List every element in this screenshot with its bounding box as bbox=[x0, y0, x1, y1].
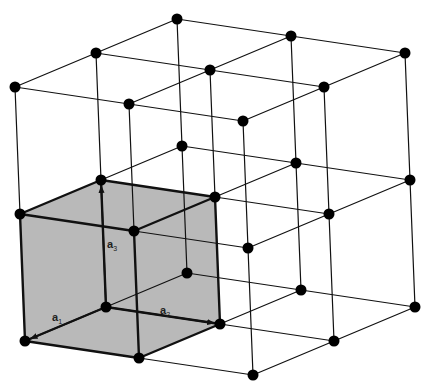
lattice-node bbox=[15, 209, 26, 220]
lattice-edge bbox=[96, 53, 101, 180]
lattice-node bbox=[20, 336, 31, 347]
vector-label-a1: a1 bbox=[52, 311, 62, 325]
lattice-edge bbox=[329, 214, 334, 341]
lattice-svg bbox=[0, 0, 428, 387]
lattice-edge bbox=[296, 163, 410, 180]
lattice-edge bbox=[243, 87, 324, 121]
lattice-edge bbox=[177, 19, 291, 36]
lattice-edge bbox=[210, 70, 215, 197]
lattice-edge bbox=[96, 53, 210, 70]
lattice-edge bbox=[210, 70, 324, 87]
lattice-node bbox=[129, 226, 140, 237]
lattice-diagram: a1 a2 a3 bbox=[0, 0, 428, 387]
vector-label-a1-sub: 1 bbox=[58, 318, 62, 325]
lattice-node bbox=[91, 48, 102, 59]
lattice-node bbox=[405, 175, 416, 186]
lattice-node bbox=[319, 82, 330, 93]
lattice-edge bbox=[301, 290, 415, 307]
lattice-node bbox=[205, 65, 216, 76]
lattice-edge bbox=[324, 87, 329, 214]
lattice-edge bbox=[129, 70, 210, 104]
lattice-node bbox=[101, 302, 112, 313]
lattice-node bbox=[291, 158, 302, 169]
lattice-edge bbox=[182, 146, 296, 163]
lattice-edge bbox=[220, 290, 301, 324]
lattice-node bbox=[177, 141, 188, 152]
lattice-edge bbox=[15, 87, 20, 214]
lattice-edge bbox=[405, 53, 410, 180]
vector-label-a3: a3 bbox=[107, 238, 117, 252]
lattice-node bbox=[400, 48, 411, 59]
lattice-edge bbox=[334, 307, 415, 341]
lattice-edge bbox=[210, 36, 291, 70]
vector-label-a2: a2 bbox=[160, 304, 170, 318]
lattice-node bbox=[182, 268, 193, 279]
lattice-node bbox=[248, 370, 259, 381]
lattice-edge bbox=[329, 180, 410, 214]
lattice-node bbox=[410, 302, 421, 313]
lattice-edge bbox=[96, 19, 177, 53]
lattice-edge bbox=[15, 87, 129, 104]
lattice-edge bbox=[248, 214, 329, 248]
lattice-node bbox=[296, 285, 307, 296]
lattice-node bbox=[210, 192, 221, 203]
lattice-edge bbox=[15, 53, 96, 87]
lattice-node bbox=[286, 31, 297, 42]
vector-label-a2-sub: 2 bbox=[166, 311, 170, 318]
lattice-node bbox=[238, 116, 249, 127]
lattice-node bbox=[329, 336, 340, 347]
lattice-edge bbox=[253, 341, 334, 375]
lattice-node bbox=[10, 82, 21, 93]
vector-label-a3-sub: 3 bbox=[113, 245, 117, 252]
lattice-node bbox=[172, 14, 183, 25]
lattice-node bbox=[243, 243, 254, 254]
lattice-node bbox=[124, 99, 135, 110]
lattice-edge bbox=[220, 324, 334, 341]
lattice-edge bbox=[101, 146, 182, 180]
lattice-node bbox=[96, 175, 107, 186]
lattice-edge bbox=[215, 163, 296, 197]
lattice-edge bbox=[139, 358, 253, 375]
lattice-edge bbox=[215, 197, 329, 214]
lattice-edge bbox=[324, 53, 405, 87]
lattice-edge bbox=[410, 180, 415, 307]
lattice-node bbox=[215, 319, 226, 330]
lattice-node bbox=[134, 353, 145, 364]
lattice-edge bbox=[129, 104, 243, 121]
lattice-edge bbox=[291, 36, 405, 53]
lattice-node bbox=[324, 209, 335, 220]
